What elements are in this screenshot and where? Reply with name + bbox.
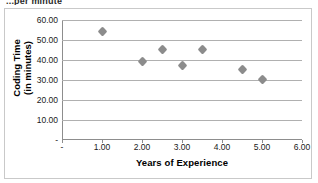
y-tick-label: 30.00 — [37, 75, 58, 85]
plot-area — [62, 20, 302, 140]
data-point — [257, 74, 267, 84]
x-tick-label: 2.00 — [134, 142, 151, 152]
x-tick-label: 5.00 — [254, 142, 271, 152]
x-tick-label: 3.00 — [174, 142, 191, 152]
chart-frame: -10.0020.0030.0040.0050.0060.00 -1.002.0… — [4, 8, 312, 179]
y-tick-label: 60.00 — [37, 15, 58, 25]
y-tick-label: 50.00 — [37, 35, 58, 45]
data-point — [237, 64, 247, 74]
y-tick-label: - — [55, 135, 58, 145]
x-tick-label: 4.00 — [214, 142, 231, 152]
data-point — [197, 44, 207, 54]
screenshot-root: ...per minute -10.0020.0030.0040.0050.00… — [0, 0, 318, 183]
x-tick-label: 1.00 — [94, 142, 111, 152]
data-point — [137, 56, 147, 66]
gridline — [62, 120, 302, 121]
y-axis-title: Coding Time (in minutes) — [11, 15, 33, 121]
x-tick-label: 6.00 — [294, 142, 311, 152]
y-tick-label: 10.00 — [37, 115, 58, 125]
data-point — [97, 26, 107, 36]
scatter-chart: -10.0020.0030.0040.0050.0060.00 -1.002.0… — [5, 9, 313, 180]
x-axis-title: Years of Experience — [62, 157, 302, 168]
x-tick-label: - — [61, 142, 64, 152]
gridline — [62, 100, 302, 101]
cut-off-header-text: ...per minute — [6, 0, 126, 5]
y-axis-title-line1: Coding Time — [11, 39, 22, 96]
y-tick-label: 20.00 — [37, 95, 58, 105]
y-axis-title-line2: (in minutes) — [22, 15, 33, 121]
gridline — [62, 20, 302, 21]
x-axis-tick-labels: -1.002.003.004.005.006.00 — [62, 142, 302, 156]
gridline — [62, 40, 302, 41]
data-point — [177, 60, 187, 70]
y-tick-label: 40.00 — [37, 55, 58, 65]
data-point — [157, 45, 167, 55]
